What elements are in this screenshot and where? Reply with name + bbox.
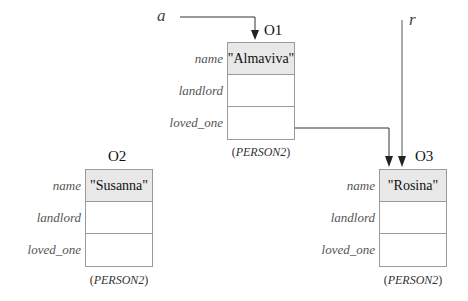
o1-name-cell: "Almaviva" xyxy=(228,43,294,75)
object-o2-box: "Susanna" xyxy=(85,169,153,267)
variable-r-label: r xyxy=(409,10,416,30)
o3-name-cell: "Rosina" xyxy=(380,170,446,202)
object-o3-label: O3 xyxy=(415,148,433,165)
o3-loved-one-cell xyxy=(380,234,446,266)
o1-landlord-cell xyxy=(228,75,294,107)
o1-field-landlord-label: landlord xyxy=(143,83,223,99)
o2-field-landlord-label: landlord xyxy=(1,210,81,226)
object-o1-label: O1 xyxy=(264,22,282,39)
object-o3-box: "Rosina" xyxy=(379,169,447,267)
o2-landlord-cell xyxy=(86,202,152,234)
o1-loved-one-cell xyxy=(228,107,294,139)
o3-field-loved-one-label: loved_one xyxy=(295,242,375,258)
o2-field-name-label: name xyxy=(1,178,81,194)
variable-a-label: a xyxy=(157,6,166,26)
arrow-a-to-o1 xyxy=(180,17,255,30)
o3-class-label: (PERSON2) xyxy=(368,273,458,288)
o2-loved-one-cell xyxy=(86,234,152,266)
o1-class-label: (PERSON2) xyxy=(216,145,306,160)
o2-class-label: (PERSON2) xyxy=(74,273,164,288)
object-o2-label: O2 xyxy=(108,148,126,165)
o1-field-name-label: name xyxy=(143,51,223,67)
o2-field-loved-one-label: loved_one xyxy=(1,242,81,258)
o3-field-name-label: name xyxy=(295,178,375,194)
o2-name-cell: "Susanna" xyxy=(86,170,152,202)
o1-field-loved-one-label: loved_one xyxy=(143,115,223,131)
object-o1-box: "Almaviva" xyxy=(227,42,295,140)
o3-landlord-cell xyxy=(380,202,446,234)
o3-field-landlord-label: landlord xyxy=(295,210,375,226)
